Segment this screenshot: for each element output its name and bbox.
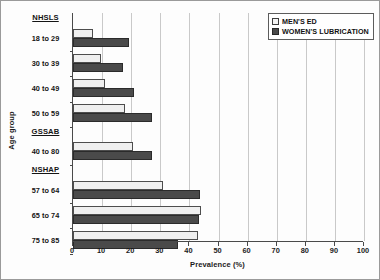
x-axis-tick-label: 90 — [322, 246, 346, 255]
x-axis-tick-label: 40 — [176, 246, 200, 255]
gridline — [364, 13, 365, 241]
bar-mens-ed — [73, 54, 101, 63]
bar-womens-lubrication — [73, 151, 152, 160]
bar-mens-ed — [73, 181, 163, 190]
x-axis-tick-label: 60 — [235, 246, 259, 255]
x-axis-tick-label: 50 — [206, 246, 230, 255]
legend-swatch-light-icon — [272, 18, 279, 25]
y-axis-tick — [70, 51, 73, 52]
bar-womens-lubrication — [73, 113, 152, 122]
gridline — [219, 13, 220, 241]
gridline — [277, 13, 278, 241]
x-axis-tick-label: 70 — [264, 246, 288, 255]
bar-mens-ed — [73, 231, 198, 240]
y-axis-tick — [70, 102, 73, 103]
legend-label-mens-ed: MEN'S ED — [282, 17, 317, 26]
category-label: 40 to 49 — [19, 84, 72, 93]
category-label: 75 to 85 — [19, 236, 72, 245]
legend-item-womens-lubrication: WOMEN'S LUBRICATION — [272, 26, 369, 36]
category-label: 57 to 64 — [19, 186, 72, 195]
plot-area — [72, 13, 364, 241]
bar-womens-lubrication — [73, 63, 123, 72]
y-axis-title: Age group — [3, 1, 19, 259]
x-axis-tick-label: 0 — [60, 246, 84, 255]
category-label: 30 to 39 — [19, 59, 72, 68]
y-axis-tick — [70, 127, 73, 128]
bar-womens-lubrication — [73, 215, 199, 224]
x-axis-title: Prevalence (%) — [72, 260, 363, 269]
x-axis-tick-label: 80 — [293, 246, 317, 255]
legend-item-mens-ed: MEN'S ED — [272, 16, 369, 26]
category-axis-labels: NHSLS18 to 2930 to 3940 to 4950 to 59GSS… — [19, 13, 72, 241]
y-axis-title-label: Age group — [7, 111, 16, 149]
bar-mens-ed — [73, 206, 201, 215]
gridline — [248, 13, 249, 241]
y-axis-tick — [70, 76, 73, 77]
y-axis-tick — [70, 228, 73, 229]
bar-womens-lubrication — [73, 190, 200, 199]
group-header-gssab: GSSAB — [19, 127, 72, 138]
prevalence-bar-chart: Age group NHSLS18 to 2930 to 3940 to 495… — [0, 0, 380, 280]
bar-mens-ed — [73, 142, 133, 151]
group-header-nshap: NSHAP — [19, 165, 72, 176]
category-label: 50 to 59 — [19, 109, 72, 118]
category-label: 65 to 74 — [19, 211, 72, 220]
bar-womens-lubrication — [73, 88, 134, 97]
x-axis-tick-label: 20 — [118, 246, 142, 255]
bar-mens-ed — [73, 104, 125, 113]
legend-swatch-dark-icon — [272, 28, 279, 35]
legend-label-womens-lubrication: WOMEN'S LUBRICATION — [282, 27, 369, 36]
bar-mens-ed — [73, 29, 93, 38]
y-axis-tick — [70, 165, 73, 166]
bar-mens-ed — [73, 79, 105, 88]
x-axis-tick-label: 100 — [351, 246, 375, 255]
x-axis-tick-label: 10 — [89, 246, 113, 255]
x-axis-tick-label: 30 — [147, 246, 171, 255]
gridline — [335, 13, 336, 241]
gridline — [306, 13, 307, 241]
group-header-nhsls: NHSLS — [19, 13, 72, 24]
chart-legend: MEN'S ED WOMEN'S LUBRICATION — [268, 13, 374, 40]
category-label: 40 to 80 — [19, 147, 72, 156]
y-axis-tick — [70, 203, 73, 204]
bar-womens-lubrication — [73, 38, 129, 47]
category-label: 18 to 29 — [19, 34, 72, 43]
